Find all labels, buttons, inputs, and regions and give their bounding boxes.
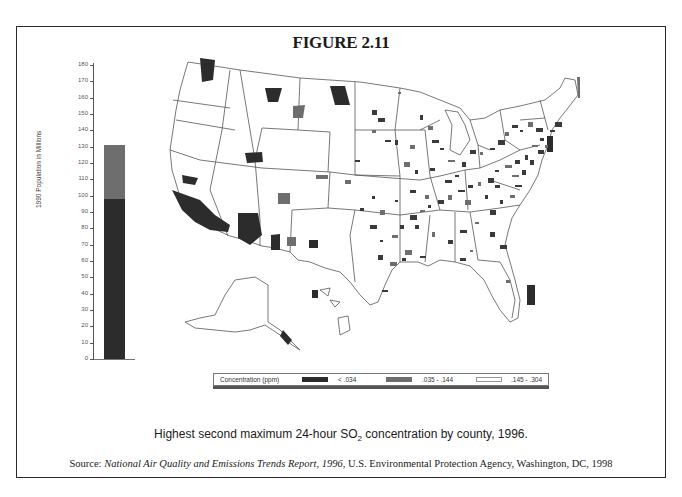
figure-caption: Highest second maximum 24-hour SO2 conce… [0, 427, 682, 443]
source-citation: Source: National Air Quality and Emissio… [0, 458, 682, 469]
y-tick [90, 65, 94, 66]
legend-swatch-mid [386, 377, 412, 382]
caption-text-end: concentration by county, 1996. [362, 427, 528, 441]
y-tick-label: 60 [66, 257, 88, 263]
source-details: , U.S. Environmental Protection Agency, … [343, 458, 613, 469]
y-tick [90, 212, 94, 213]
y-tick-label: 180 [66, 61, 88, 67]
y-tick-label: 10 [66, 339, 88, 345]
y-tick [90, 98, 94, 99]
y-tick-label: 70 [66, 241, 88, 247]
y-axis-label: 1990 Population in Millions [35, 131, 42, 208]
y-tick [90, 114, 94, 115]
y-tick [90, 359, 94, 360]
y-tick [90, 179, 94, 180]
y-tick-label: 130 [66, 143, 88, 149]
bar-segment-1 [104, 145, 125, 199]
y-tick [90, 147, 94, 148]
y-tick [90, 81, 94, 82]
y-tick [90, 294, 94, 295]
legend-swatch-low [302, 377, 328, 382]
source-label: Source: [69, 458, 104, 469]
x-axis-baseline [93, 359, 135, 360]
legend-title: Concentration (ppm) [220, 376, 279, 383]
y-tick [90, 343, 94, 344]
legend-swatch-high [476, 377, 502, 382]
y-tick [90, 245, 94, 246]
us-county-map [150, 55, 580, 355]
y-tick [90, 310, 94, 311]
legend-label-mid: .035 - .144 [422, 376, 453, 383]
y-tick-label: 160 [66, 94, 88, 100]
y-tick-label: 50 [66, 273, 88, 279]
legend: Concentration (ppm) < .034 .035 - .144 .… [213, 373, 549, 386]
bar-segment-0 [104, 199, 125, 359]
y-tick [90, 261, 94, 262]
state-outlines [170, 62, 578, 350]
y-tick-label: 140 [66, 126, 88, 132]
y-tick [90, 130, 94, 131]
y-tick-label: 100 [66, 192, 88, 198]
y-tick-label: 80 [66, 224, 88, 230]
y-tick [90, 163, 94, 164]
y-tick-label: 20 [66, 322, 88, 328]
y-tick [90, 228, 94, 229]
y-tick-label: 170 [66, 77, 88, 83]
y-tick-label: 40 [66, 290, 88, 296]
y-tick [90, 326, 94, 327]
figure-title: FIGURE 2.11 [0, 33, 682, 53]
y-tick-label: 90 [66, 208, 88, 214]
legend-label-high: .145 - .304 [511, 376, 542, 383]
y-tick-label: 110 [66, 175, 88, 181]
caption-text: Highest second maximum 24-hour SO [154, 427, 357, 441]
y-tick-label: 30 [66, 306, 88, 312]
y-tick [90, 277, 94, 278]
legend-label-low: < .034 [338, 376, 356, 383]
source-title: National Air Quality and Emissions Trend… [104, 458, 343, 469]
y-tick [90, 196, 94, 197]
y-tick-label: 0 [66, 355, 88, 361]
y-tick-label: 120 [66, 159, 88, 165]
y-tick-label: 150 [66, 110, 88, 116]
